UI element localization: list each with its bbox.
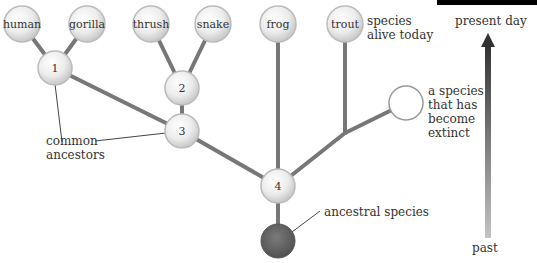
species-node-gorilla: gorilla: [69, 6, 105, 42]
svg-text:human: human: [3, 18, 41, 31]
top-black-bar: [437, 0, 537, 5]
species-node-trout: trout: [327, 6, 363, 42]
extinct-species-node: [389, 86, 423, 120]
present-day-label: present day: [455, 14, 527, 28]
svg-text:1: 1: [52, 62, 59, 75]
species-node-snake: snake: [195, 6, 231, 42]
svg-text:4: 4: [275, 180, 282, 193]
species-alive-line2: alive today: [367, 28, 433, 42]
ancestral-species-label: ancestral species: [324, 205, 429, 219]
species-node-frog: frog: [260, 6, 296, 42]
extinct-line4: extinct: [428, 126, 484, 140]
ancestor-node-2: 2: [165, 71, 199, 105]
svg-text:trout: trout: [331, 18, 359, 31]
svg-text:snake: snake: [197, 18, 229, 31]
ancestor-node-1: 1: [38, 51, 72, 85]
common-line2: ancestors: [46, 148, 105, 162]
svg-text:2: 2: [179, 82, 186, 95]
svg-text:gorilla: gorilla: [69, 18, 105, 31]
species-alive-line1: species: [367, 14, 433, 28]
extinct-species-label: a species that has become extinct: [428, 84, 484, 140]
species-node-thrush: thrush: [133, 6, 170, 42]
svg-text:3: 3: [179, 125, 186, 138]
extinct-line1: a species: [428, 84, 484, 98]
ancestor-node-3: 3: [165, 114, 199, 148]
species-alive-today-label: species alive today: [367, 14, 433, 42]
ancestral-species-node: [261, 224, 295, 258]
extinct-line3: become: [428, 112, 484, 126]
common-line1: common: [46, 134, 105, 148]
extinct-line2: that has: [428, 98, 484, 112]
species-node-human: human: [3, 6, 41, 42]
common-ancestors-label: common ancestors: [46, 134, 105, 162]
svg-text:frog: frog: [267, 18, 290, 31]
ancestor-node-4: 4: [261, 169, 295, 203]
past-label: past: [472, 241, 498, 255]
svg-text:thrush: thrush: [133, 18, 170, 31]
